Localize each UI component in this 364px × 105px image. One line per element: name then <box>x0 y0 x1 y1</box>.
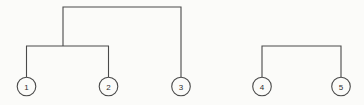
node-3-label: 3 <box>179 83 184 92</box>
dendrogram-canvas: 1 2 3 4 5 <box>0 0 364 105</box>
node-5[interactable]: 5 <box>332 77 351 96</box>
bracket-nodes-4-5 <box>262 46 341 77</box>
bracket-cluster12-node3 <box>63 7 181 77</box>
dendrogram-figure: 1 2 3 4 5 <box>0 0 364 105</box>
node-group: 1 2 3 4 5 <box>17 77 350 96</box>
link-group <box>27 7 342 77</box>
node-3[interactable]: 3 <box>172 77 191 96</box>
node-5-label: 5 <box>339 83 344 92</box>
node-1[interactable]: 1 <box>17 77 36 96</box>
node-2[interactable]: 2 <box>99 77 118 96</box>
node-4[interactable]: 4 <box>253 77 272 96</box>
node-1-label: 1 <box>24 83 29 92</box>
bracket-nodes-1-2 <box>27 46 109 77</box>
node-4-label: 4 <box>260 83 265 92</box>
node-2-label: 2 <box>106 83 111 92</box>
